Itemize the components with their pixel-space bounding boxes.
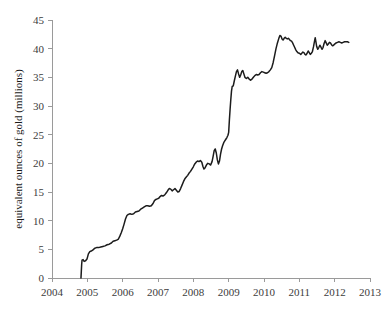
line-chart: equivalent ounces of gold (millions) 051… — [0, 0, 385, 313]
y-tick-label: 5 — [39, 243, 45, 255]
x-tick-label: 2011 — [289, 286, 311, 298]
axis-lines — [52, 20, 370, 278]
y-tick-label: 15 — [33, 186, 45, 198]
y-axis-title: equivalent ounces of gold (millions) — [12, 69, 25, 229]
x-tick-label: 2008 — [182, 286, 205, 298]
x-axis-tick-labels: 2004200520062007200820092010201120122013 — [41, 286, 382, 298]
y-axis-title-group: equivalent ounces of gold (millions) — [12, 69, 25, 229]
x-tick-label: 2010 — [253, 286, 276, 298]
y-tick-label: 0 — [39, 272, 45, 284]
y-tick-label: 25 — [33, 129, 45, 141]
y-tick-label: 40 — [33, 43, 45, 55]
x-tick-label: 2013 — [359, 286, 382, 298]
x-tick-label: 2009 — [218, 286, 241, 298]
axis-tick-marks — [48, 20, 370, 282]
y-tick-label: 35 — [33, 71, 45, 83]
y-tick-label: 20 — [33, 157, 45, 169]
y-tick-label: 45 — [33, 14, 45, 26]
x-tick-label: 2006 — [112, 286, 135, 298]
y-tick-label: 10 — [33, 215, 45, 227]
x-tick-label: 2005 — [76, 286, 99, 298]
y-axis-tick-labels: 051015202530354045 — [33, 14, 45, 284]
x-tick-label: 2007 — [147, 286, 170, 298]
x-tick-label: 2004 — [41, 286, 64, 298]
x-tick-label: 2012 — [324, 286, 346, 298]
y-tick-label: 30 — [33, 100, 45, 112]
chart-container: equivalent ounces of gold (millions) 051… — [0, 0, 385, 313]
data-series-line — [81, 35, 349, 278]
